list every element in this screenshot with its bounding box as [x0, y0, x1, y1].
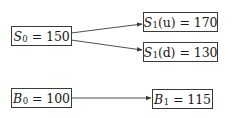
node-s0-value: 150 — [46, 29, 70, 44]
node-b0-sub: 0 — [23, 96, 28, 106]
node-b1: B1=115 — [152, 89, 213, 109]
node-s1d-var: S — [144, 45, 152, 60]
edge-s0-to-s1d — [71, 40, 142, 50]
edge-s0-to-s1u — [71, 24, 142, 33]
node-s0-equals: = — [32, 29, 42, 44]
node-s1u-sub: 1 — [153, 20, 158, 30]
node-s0-var: S — [13, 29, 21, 44]
node-b0-equals: = — [32, 91, 42, 106]
node-s1u: S1(u)=170 — [143, 12, 218, 32]
node-s1u-arg: (u) — [158, 15, 176, 30]
node-b1-equals: = — [173, 92, 183, 107]
node-b0-var: B — [13, 91, 22, 106]
node-b0: B0=100 — [11, 88, 72, 108]
node-b0-value: 100 — [46, 91, 70, 106]
node-s1u-var: S — [144, 15, 152, 30]
node-s1d: S1(d)=130 — [143, 42, 218, 62]
node-b1-value: 115 — [187, 92, 211, 107]
node-b1-sub: 1 — [164, 97, 169, 107]
node-s1d-value: 130 — [194, 45, 218, 60]
node-s0: S0=150 — [11, 26, 72, 46]
node-s1u-equals: = — [179, 15, 189, 30]
node-s1u-value: 170 — [194, 15, 218, 30]
node-s1d-equals: = — [179, 45, 189, 60]
binomial-tree-diagram: S0=150 S1(u)=170 S1(d)=130 B0=100 B1=115 — [0, 0, 232, 118]
node-s0-sub: 0 — [22, 34, 27, 44]
node-s1d-arg: (d) — [158, 45, 175, 60]
node-s1d-sub: 1 — [153, 50, 158, 60]
node-b1-var: B — [154, 92, 163, 107]
